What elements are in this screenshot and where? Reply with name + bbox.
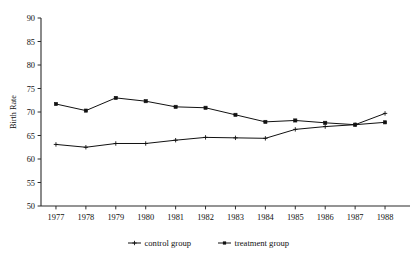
x-tick-label: 1985 <box>287 213 304 222</box>
x-tick-label: 1980 <box>137 213 154 222</box>
y-tick-label: 55 <box>27 179 35 188</box>
data-point-marker <box>144 141 148 145</box>
data-point-marker <box>323 124 327 128</box>
y-tick-label: 85 <box>27 38 35 47</box>
y-tick-label: 70 <box>27 108 35 117</box>
legend-marker-cross <box>132 241 136 245</box>
data-point-marker <box>293 127 297 131</box>
data-point-marker <box>203 135 207 139</box>
data-point-marker <box>84 145 88 149</box>
birth-rate-line-chart: 505560657075808590Birth Rate197719781979… <box>0 0 417 258</box>
data-point-marker <box>144 100 147 103</box>
x-tick-label: 1978 <box>78 213 95 222</box>
data-point-marker <box>84 109 87 112</box>
data-point-marker <box>383 111 387 115</box>
x-tick-label: 1981 <box>167 213 184 222</box>
series-line-1 <box>56 98 385 125</box>
data-point-marker <box>54 142 58 146</box>
data-point-marker <box>294 119 297 122</box>
legend-label: control group <box>145 238 192 248</box>
series-line-0 <box>56 113 385 147</box>
y-tick-label: 50 <box>27 202 35 211</box>
data-point-marker <box>174 105 177 108</box>
x-tick-label: 1986 <box>317 213 334 222</box>
legend-item-1: treatment group <box>218 238 289 248</box>
x-tick-label: 1979 <box>107 213 124 222</box>
data-point-marker <box>264 120 267 123</box>
y-tick-label: 60 <box>27 155 35 164</box>
data-point-marker <box>324 121 327 124</box>
data-point-marker <box>234 113 237 116</box>
data-point-marker <box>54 102 57 105</box>
data-point-marker <box>354 123 357 126</box>
data-point-marker <box>114 141 118 145</box>
x-tick-label: 1982 <box>197 213 214 222</box>
data-point-marker <box>263 136 267 140</box>
x-tick-label: 1983 <box>227 213 244 222</box>
data-point-marker <box>173 138 177 142</box>
chart-canvas: 505560657075808590Birth Rate197719781979… <box>0 0 417 258</box>
legend-marker-square <box>223 241 226 244</box>
data-point-marker <box>233 136 237 140</box>
data-point-marker <box>383 121 386 124</box>
y-tick-label: 75 <box>27 85 35 94</box>
y-axis-title: Birth Rate <box>9 95 18 129</box>
data-point-marker <box>204 106 207 109</box>
y-tick-label: 90 <box>27 14 35 23</box>
x-tick-label: 1987 <box>347 213 364 222</box>
y-tick-label: 80 <box>27 61 35 70</box>
legend-item-0: control group <box>128 238 191 248</box>
x-tick-label: 1984 <box>257 213 275 222</box>
data-point-marker <box>114 96 117 99</box>
x-tick-label: 1977 <box>48 213 65 222</box>
legend-label: treatment group <box>235 238 290 248</box>
x-tick-label: 1988 <box>377 213 394 222</box>
y-tick-label: 65 <box>27 132 35 141</box>
